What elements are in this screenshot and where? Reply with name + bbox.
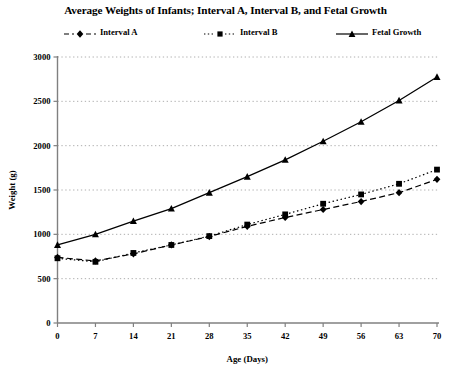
data-point-interval-b [206,233,212,239]
x-axis-tick-label: 42 [281,331,290,341]
data-point-interval-b [282,211,288,217]
x-axis-tick-label: 21 [167,331,176,341]
series-line-fetal-growth [58,77,438,245]
chart-plot-area: 0500100015002000250030000714212835424956… [0,0,451,377]
series-line-interval-a [58,179,438,261]
x-axis-tick-label: 63 [395,331,404,341]
y-axis-tick-label: 2000 [33,141,50,151]
data-point-interval-a [320,206,327,213]
data-point-interval-b [93,259,99,265]
y-axis-tick-label: 1000 [33,229,50,239]
y-axis-tick-label: 1500 [33,185,50,195]
x-axis-tick-label: 56 [357,331,366,341]
x-axis-tick-label: 70 [433,331,442,341]
data-point-fetal-growth [282,156,289,163]
data-point-interval-b [434,167,440,173]
data-point-fetal-growth [434,73,441,80]
data-point-interval-b [55,255,61,261]
x-axis-tick-label: 14 [129,331,138,341]
y-axis-title: Weight (g) [7,170,17,209]
data-point-fetal-growth [396,97,403,104]
x-axis-tick-label: 0 [55,331,59,341]
data-point-fetal-growth [358,118,365,125]
x-axis-title: Age (Days) [227,354,268,364]
y-axis-tick-label: 2500 [33,96,50,106]
data-point-interval-b [320,201,326,207]
data-point-interval-a [358,198,365,205]
y-axis-tick-label: 3000 [33,52,50,62]
data-point-interval-b [131,250,137,256]
data-point-interval-b [396,181,402,187]
data-point-interval-a [434,176,441,183]
data-point-fetal-growth [244,173,251,180]
x-axis-tick-label: 28 [205,331,214,341]
data-point-interval-b [358,192,364,198]
x-axis-tick-label: 49 [319,331,328,341]
data-point-interval-b [244,222,250,228]
data-point-fetal-growth [320,138,327,145]
data-point-fetal-growth [168,205,175,212]
data-point-interval-b [168,242,174,248]
y-axis-tick-label: 500 [38,274,51,284]
x-axis-tick-label: 7 [93,331,98,341]
y-axis-tick-label: 0 [46,318,50,328]
x-axis-tick-label: 35 [243,331,252,341]
chart-container: Average Weights of Infants; Interval A, … [0,0,451,377]
series-line-interval-b [58,170,438,262]
